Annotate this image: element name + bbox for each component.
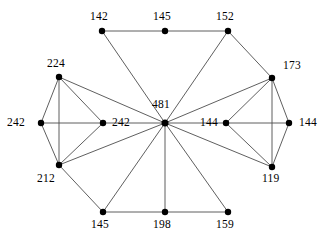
graph-node[interactable] [162, 120, 169, 127]
graph-node-label: 159 [216, 219, 234, 231]
graph-node-label: 242 [112, 117, 130, 129]
graph-node-label: 144 [299, 117, 317, 129]
graph-edge [59, 123, 165, 165]
graph-diagram: 4811421451521731441441191591981452122422… [0, 0, 333, 246]
graph-edge [59, 123, 103, 165]
graph-node-label: 142 [90, 11, 108, 23]
graph-node[interactable] [100, 209, 106, 215]
graph-node-label: 145 [91, 219, 109, 231]
graph-node[interactable] [225, 209, 231, 215]
graph-node[interactable] [225, 28, 231, 34]
graph-edge [59, 77, 103, 123]
graph-edge [226, 123, 272, 167]
graph-node-label: 119 [262, 173, 279, 185]
graph-node[interactable] [223, 120, 229, 126]
graph-node-label: 144 [200, 117, 218, 129]
graph-node-label: 145 [153, 11, 171, 23]
graph-node[interactable] [162, 28, 168, 34]
graph-edge [272, 78, 289, 123]
graph-edge [272, 123, 289, 167]
graph-node-label: 212 [37, 173, 55, 185]
graph-node[interactable] [286, 120, 292, 126]
graph-edge [41, 77, 59, 123]
graph-node-label: 481 [152, 99, 170, 111]
graph-edge [165, 31, 228, 123]
graph-node-label: 152 [216, 11, 234, 23]
graph-canvas [0, 0, 333, 246]
graph-node[interactable] [56, 162, 62, 168]
graph-edge [59, 165, 103, 212]
graph-node[interactable] [38, 120, 44, 126]
graph-edge [228, 31, 272, 78]
graph-node[interactable] [269, 75, 275, 81]
graph-node-label: 242 [7, 117, 25, 129]
graph-node[interactable] [56, 74, 62, 80]
graph-node[interactable] [100, 120, 106, 126]
graph-node[interactable] [99, 28, 105, 34]
graph-edge [103, 123, 165, 212]
graph-edge [226, 78, 272, 123]
graph-edge [41, 123, 59, 165]
graph-node[interactable] [162, 209, 168, 215]
graph-node-label: 173 [283, 60, 301, 72]
graph-node-label: 224 [47, 58, 65, 70]
graph-node[interactable] [269, 164, 275, 170]
graph-edge [165, 78, 272, 123]
graph-node-label: 198 [153, 219, 171, 231]
